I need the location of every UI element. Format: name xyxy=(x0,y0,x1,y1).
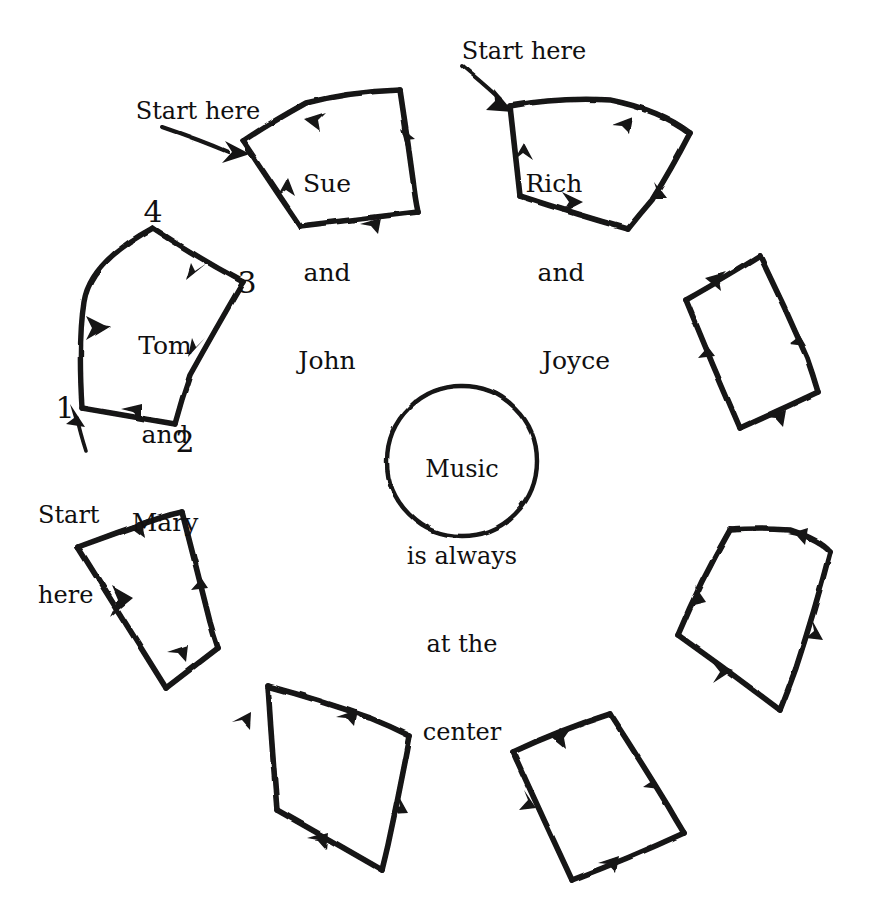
corner-label-2: 2 xyxy=(172,424,198,459)
rich-joyce-line-3: Joyce xyxy=(527,346,625,376)
rich-joyce-line-2: and xyxy=(497,258,625,288)
start-here-arrow-sue-john xyxy=(162,127,228,152)
tom-mary-line-3: Mary xyxy=(110,508,220,538)
quad-right-lower-outline xyxy=(678,529,830,710)
quad-bottom-left-arrows xyxy=(232,710,408,849)
tom-mary-line-2: and xyxy=(110,420,220,450)
start-here-label-sue-john: Start here xyxy=(118,98,278,125)
start-here-line-2: here xyxy=(38,582,118,609)
diagram-page: Music is always at the center Tom and Ma… xyxy=(0,0,875,901)
start-here-label-tom-mary: Start here xyxy=(38,448,118,663)
quad-bottom-left-outline xyxy=(268,686,410,870)
tom-mary-line-1: Tom xyxy=(110,331,220,361)
center-circle-text: Music is always at the center xyxy=(392,396,532,806)
quad-label-tom-mary: Tom and Mary xyxy=(110,272,220,597)
sue-john-line-1: Sue xyxy=(272,169,382,199)
rich-joyce-line-1: Rich xyxy=(483,169,625,199)
start-here-line-1: Start xyxy=(38,502,118,529)
sue-john-line-2: and xyxy=(272,258,382,288)
sue-john-line-3: John xyxy=(272,346,382,376)
center-line-1: Music xyxy=(392,455,532,484)
center-line-4: center xyxy=(392,718,532,747)
quad-label-rich-joyce: Rich and Joyce xyxy=(505,110,625,435)
start-here-arrow-rich-joyce xyxy=(462,66,500,99)
corner-label-4: 4 xyxy=(140,194,166,229)
corner-label-1: 1 xyxy=(52,390,78,425)
quad-label-sue-john: Sue and John xyxy=(272,110,382,435)
start-here-label-rich-joyce: Start here xyxy=(444,38,604,65)
corner-label-3: 3 xyxy=(234,265,260,300)
center-line-2: is always xyxy=(392,542,532,571)
quad-bottom-right-outline xyxy=(513,714,684,880)
center-line-3: at the xyxy=(392,630,532,659)
